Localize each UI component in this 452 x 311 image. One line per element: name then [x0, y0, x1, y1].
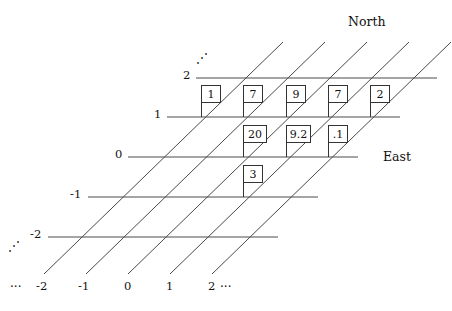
north-axis-ellipsis-top: ⋰ — [196, 52, 208, 64]
east-axis-ellipsis-left: ··· — [10, 281, 21, 293]
east-tick-m1: -1 — [78, 281, 89, 293]
north-tick-2: 2 — [183, 70, 190, 82]
east-tick-m2: -2 — [36, 281, 47, 293]
value-cells: 1 7 9 7 2 — [202, 86, 390, 198]
north-tick-m1: -1 — [70, 189, 81, 201]
east-tick-1: 1 — [166, 281, 173, 293]
value-cell: 7 — [329, 86, 348, 118]
east-tick-0: 0 — [124, 281, 131, 293]
north-axis-ellipsis-bottom: ⋰ — [8, 240, 20, 252]
north-tick-m2: -2 — [30, 229, 41, 241]
value-cell: 9.2 — [287, 126, 311, 158]
cell-value: 1 — [208, 88, 215, 101]
cell-value: 2 — [377, 88, 384, 101]
cell-value: 20 — [248, 128, 262, 141]
cell-value: 7 — [250, 88, 257, 101]
north-direction-label: North — [348, 16, 386, 29]
value-cell: 9 — [287, 86, 306, 118]
north-tick-0: 0 — [115, 149, 122, 161]
cell-value: 7 — [335, 88, 342, 101]
cell-value: 9 — [293, 88, 300, 101]
value-cell: 20 — [244, 126, 267, 158]
north-tick-1: 1 — [154, 109, 161, 121]
cell-value: .1 — [333, 128, 344, 141]
east-tick-2: 2 — [208, 281, 215, 293]
cell-value: 9.2 — [290, 128, 308, 141]
value-cell: 3 — [244, 166, 263, 198]
east-axis-ellipsis-right: ··· — [220, 281, 231, 293]
cell-value: 3 — [250, 168, 257, 181]
lattice-diagram: 1 7 9 7 2 — [0, 0, 452, 311]
value-cell: 2 — [371, 86, 390, 118]
east-direction-label: East — [383, 151, 411, 164]
